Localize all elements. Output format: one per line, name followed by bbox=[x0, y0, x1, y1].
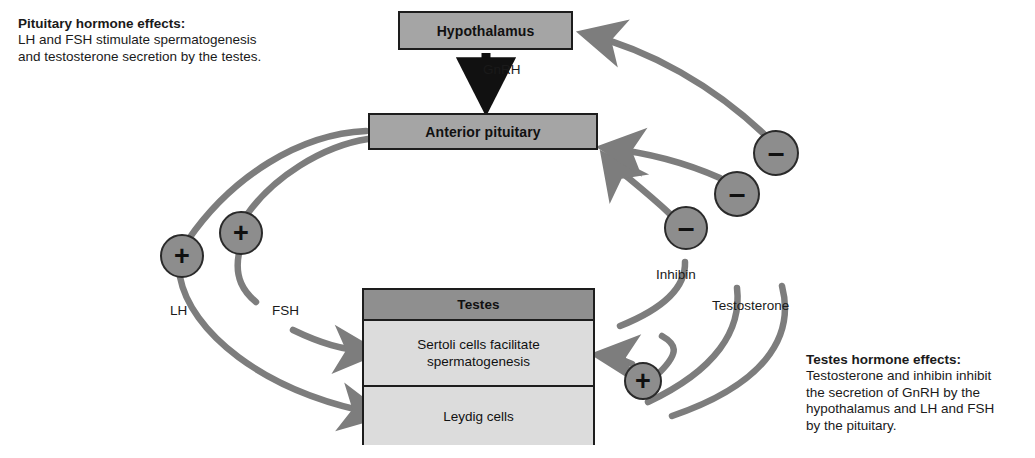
minus-sign: – bbox=[729, 179, 746, 209]
plus-sign: + bbox=[635, 368, 651, 395]
testes-title-label: Testes bbox=[364, 290, 593, 319]
node-plus-lh: + bbox=[160, 234, 204, 278]
note-pituitary-line1: LH and FSH stimulate spermatogenesis bbox=[18, 32, 348, 49]
note-testes-line2: the secretion of GnRH by the bbox=[806, 385, 1031, 402]
box-anterior-pituitary: Anterior pituitary bbox=[368, 113, 598, 150]
node-plus-testosterone-sertoli: + bbox=[624, 362, 662, 400]
note-testes-line4: by the pituitary. bbox=[806, 418, 1031, 435]
box-hypothalamus: Hypothalamus bbox=[398, 11, 573, 50]
sertoli-label-line2: spermatogenesis bbox=[427, 354, 530, 369]
leydig-label: Leydig cells bbox=[443, 408, 514, 425]
label-fsh: FSH bbox=[272, 303, 299, 318]
note-pituitary-hormone-effects: Pituitary hormone effects: LH and FSH st… bbox=[18, 16, 348, 65]
label-gnrh: GnRH bbox=[483, 62, 521, 77]
diagram-canvas: Hypothalamus Anterior pituitary Testes S… bbox=[0, 0, 1035, 458]
node-minus-testosterone-hypothalamus: – bbox=[753, 130, 799, 176]
testes-header: Testes bbox=[364, 290, 593, 321]
node-plus-fsh: + bbox=[219, 211, 263, 255]
sertoli-label: Sertoli cells facilitate spermatogenesis bbox=[417, 336, 539, 370]
minus-sign: – bbox=[768, 138, 785, 168]
label-inhibin: Inhibin bbox=[656, 267, 696, 282]
note-testes-line1: Testosterone and inhibin inhibit bbox=[806, 368, 1031, 385]
plus-sign: + bbox=[174, 243, 190, 270]
testes-sertoli-cell: Sertoli cells facilitate spermatogenesis bbox=[364, 321, 593, 387]
arrow-lh bbox=[180, 131, 378, 414]
box-anterior-pituitary-label: Anterior pituitary bbox=[370, 115, 596, 148]
testes-leydig-cell: Leydig cells bbox=[364, 387, 593, 445]
note-testes-hormone-effects: Testes hormone effects: Testosterone and… bbox=[806, 352, 1031, 434]
plus-sign: + bbox=[233, 220, 249, 247]
sertoli-label-line1: Sertoli cells facilitate bbox=[417, 337, 539, 352]
box-testes: Testes Sertoli cells facilitate spermato… bbox=[362, 288, 595, 445]
node-minus-testosterone-pituitary: – bbox=[714, 171, 760, 217]
label-lh: LH bbox=[170, 303, 187, 318]
node-minus-inhibin: – bbox=[664, 206, 708, 250]
box-hypothalamus-label: Hypothalamus bbox=[400, 13, 571, 48]
note-testes-heading: Testes hormone effects: bbox=[806, 352, 1031, 368]
note-testes-line3: hypothalamus and LH and FSH bbox=[806, 401, 1031, 418]
label-testosterone: Testosterone bbox=[712, 298, 789, 313]
minus-sign: – bbox=[678, 213, 695, 243]
note-pituitary-line2: and testosterone secretion by the testes… bbox=[18, 49, 348, 66]
note-pituitary-heading: Pituitary hormone effects: bbox=[18, 16, 348, 32]
